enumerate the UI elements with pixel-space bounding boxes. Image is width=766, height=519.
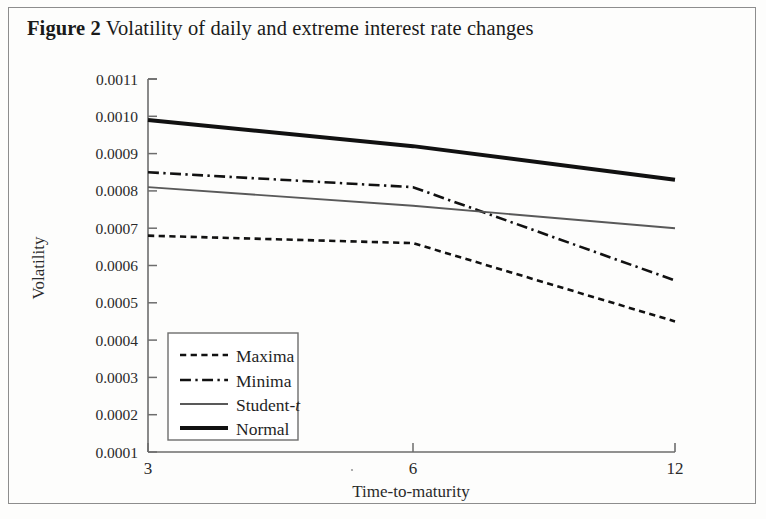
chart-legend: MaximaMinimaStudent-tNormal bbox=[168, 333, 301, 440]
figure-container: Figure 2 Volatility of daily and extreme… bbox=[0, 0, 766, 519]
y-tick-label: 0.0011 bbox=[96, 71, 138, 88]
series-line-normal bbox=[148, 120, 675, 180]
x-axis-ticks bbox=[351, 443, 413, 471]
chart-plot: 0.00010.00020.00030.00040.00050.00060.00… bbox=[0, 0, 766, 519]
series-line-studentt bbox=[148, 187, 675, 228]
y-tick-label: 0.0006 bbox=[95, 257, 138, 274]
chart-series-layer bbox=[148, 120, 675, 321]
x-minor-mark bbox=[351, 469, 353, 471]
y-tick-label: 0.0010 bbox=[95, 108, 138, 125]
series-line-minima bbox=[148, 172, 675, 280]
y-axis-title: Volatility bbox=[29, 236, 48, 299]
x-axis-title: Time-to-maturity bbox=[352, 482, 470, 501]
y-tick-label: 0.0004 bbox=[95, 332, 138, 349]
x-tick-label: 3 bbox=[144, 459, 153, 478]
y-axis-tick-labels: 0.00010.00020.00030.00040.00050.00060.00… bbox=[95, 71, 138, 461]
y-tick-label: 0.0002 bbox=[95, 406, 138, 423]
x-axis-tick-labels: 3612 bbox=[144, 459, 684, 478]
x-tick-label: 6 bbox=[409, 459, 418, 478]
y-tick-label: 0.0001 bbox=[95, 444, 138, 461]
legend-label-maxima: Maxima bbox=[236, 346, 295, 366]
y-axis-ticks bbox=[148, 79, 157, 452]
legend-label-normal: Normal bbox=[236, 419, 290, 439]
x-tick-label: 12 bbox=[667, 459, 684, 478]
series-line-maxima bbox=[148, 236, 675, 322]
y-tick-label: 0.0003 bbox=[95, 369, 138, 386]
y-tick-label: 0.0005 bbox=[95, 294, 138, 311]
legend-label-minima: Minima bbox=[236, 371, 292, 391]
legend-label-studentt: Student-t bbox=[236, 395, 301, 415]
y-tick-label: 0.0008 bbox=[95, 182, 138, 199]
y-tick-label: 0.0009 bbox=[95, 145, 138, 162]
y-tick-label: 0.0007 bbox=[95, 220, 138, 237]
